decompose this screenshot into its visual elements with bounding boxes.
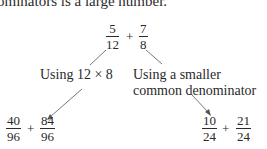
right-branch-label-line2: common denominator (133, 83, 256, 99)
fraction-21-24: 21 24 (236, 114, 251, 143)
fraction-10-24: 10 24 (202, 114, 217, 143)
fraction-40-96: 40 96 (6, 114, 21, 143)
numerator: 21 (236, 114, 251, 128)
numerator: 10 (202, 114, 217, 128)
numerator: 84 (40, 114, 55, 128)
denominator: 24 (203, 129, 216, 143)
fraction-84-96: 84 96 (40, 114, 55, 143)
left-branch-label: Using 12 × 8 (40, 67, 113, 83)
plus-sign: + (27, 121, 34, 137)
denominator: 96 (7, 129, 20, 143)
right-branch-label-line1: Using a smaller (133, 67, 221, 83)
plus-sign: + (222, 121, 229, 137)
denominator: 24 (237, 129, 250, 143)
numerator: 40 (6, 114, 21, 128)
denominator: 96 (41, 129, 54, 143)
